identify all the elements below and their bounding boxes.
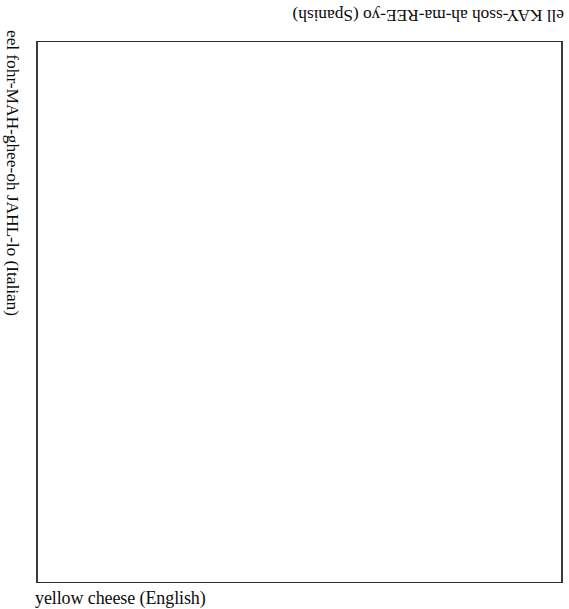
caption-spanish: ell KAY-ssoh ah-ma-REE-yo (Spanish) xyxy=(0,2,569,30)
empty-illustration-box[interactable] xyxy=(36,41,563,583)
caption-spanish-text: ell KAY-ssoh ah-ma-REE-yo (Spanish) xyxy=(293,7,564,25)
caption-italian-container: eel fohr-MAH-ghee-oh JAHL-lo (Italian) xyxy=(0,30,26,410)
caption-english: yellow cheese (English) xyxy=(35,589,206,608)
caption-italian: eel fohr-MAH-ghee-oh JAHL-lo (Italian) xyxy=(0,30,26,410)
caption-italian-text: eel fohr-MAH-ghee-oh JAHL-lo (Italian) xyxy=(4,30,22,316)
caption-english-text: yellow cheese (English) xyxy=(35,588,206,608)
scanned-page: ell KAY-ssoh ah-ma-REE-yo (Spanish) eel … xyxy=(0,0,569,609)
